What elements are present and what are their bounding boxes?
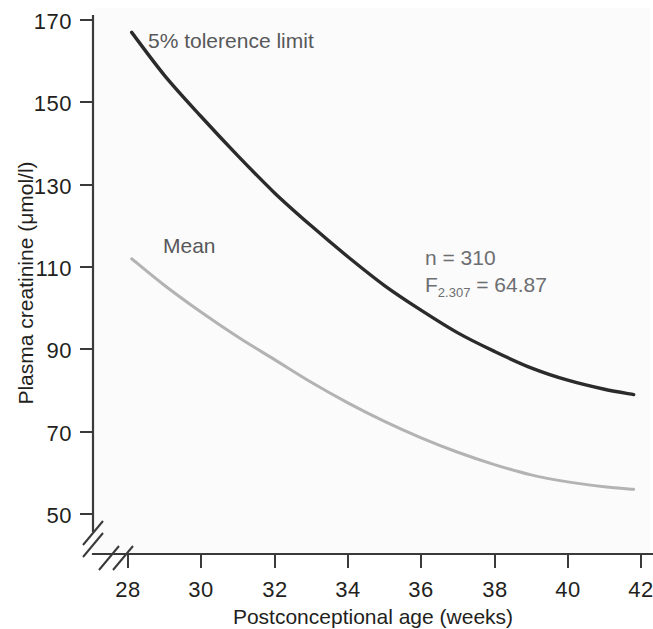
chart-figure: 170 150 130 110 90 70 50 28 30 32 34 36 … (0, 0, 653, 629)
annotation-sample-size: n = 310 (425, 246, 496, 269)
x-tick-label-42: 42 (628, 577, 653, 602)
x-tick-label-32: 32 (262, 577, 287, 602)
annotation-f-value: = 64.87 (470, 273, 546, 296)
annotation-f-subscript: 2.307 (438, 285, 471, 300)
annotation-f-base: F (425, 273, 438, 296)
x-tick-label-28: 28 (115, 577, 140, 602)
y-axis-title: Plasma creatinine (μmol/l) (14, 161, 37, 404)
x-tick-label-38: 38 (482, 577, 507, 602)
y-tick-label-130: 130 (34, 174, 72, 199)
plasma-creatinine-chart: 170 150 130 110 90 70 50 28 30 32 34 36 … (0, 0, 653, 629)
y-tick-label-170: 170 (34, 9, 72, 34)
x-axis-ticks (128, 554, 641, 568)
series-label-tolerance-limit: 5% tolerence limit (148, 29, 314, 52)
x-tick-label-34: 34 (335, 577, 360, 602)
y-tick-label-50: 50 (47, 503, 72, 528)
series-label-mean: Mean (163, 234, 216, 257)
y-tick-label-70: 70 (47, 421, 72, 446)
y-tick-label-110: 110 (35, 256, 72, 281)
y-axis-ticks (80, 20, 93, 514)
y-tick-label-150: 150 (34, 91, 72, 116)
x-axis-title: Postconceptional age (weeks) (233, 605, 513, 628)
x-tick-label-40: 40 (555, 577, 580, 602)
x-tick-label-36: 36 (408, 577, 433, 602)
x-tick-label-30: 30 (188, 577, 213, 602)
y-tick-label-90: 90 (47, 338, 72, 363)
